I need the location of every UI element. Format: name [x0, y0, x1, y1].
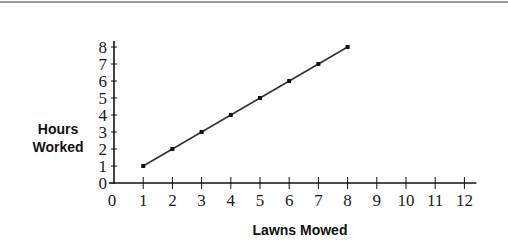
y-tick-label: 0 — [99, 174, 108, 193]
data-point — [258, 96, 262, 100]
x-tick-label: 2 — [168, 191, 177, 210]
y-tick-label: 5 — [99, 89, 108, 108]
data-point — [141, 164, 145, 168]
x-tick-label: 6 — [285, 191, 294, 210]
y-tick-label: 8 — [99, 38, 108, 57]
x-tick-label: 12 — [456, 191, 473, 210]
x-axis-title: Lawns Mowed — [253, 222, 348, 238]
y-tick-label: 1 — [99, 157, 108, 176]
data-point — [316, 62, 320, 66]
x-tick-label: 9 — [373, 191, 382, 210]
y-tick-label: 7 — [99, 55, 108, 74]
x-tick-label: 1 — [139, 191, 148, 210]
data-point — [170, 147, 174, 151]
x-tick-label: 7 — [314, 191, 323, 210]
y-tick-label: 3 — [99, 123, 108, 142]
data-point — [346, 45, 350, 49]
y-tick-label: 6 — [99, 72, 108, 91]
line-chart: 0123456789101112012345678Lawns MowedHour… — [0, 0, 508, 252]
y-tick-label: 4 — [99, 106, 108, 125]
data-point — [200, 130, 204, 134]
y-axis-title-line: Worked — [32, 139, 83, 155]
data-point — [229, 113, 233, 117]
data-point — [287, 79, 291, 83]
x-tick-label: 5 — [256, 191, 265, 210]
x-tick-label: 0 — [108, 191, 117, 210]
y-tick-label: 2 — [99, 140, 108, 159]
x-tick-label: 10 — [398, 191, 415, 210]
x-tick-label: 11 — [427, 191, 443, 210]
x-tick-label: 4 — [227, 191, 236, 210]
y-axis-title-line: Hours — [38, 121, 79, 137]
x-tick-label: 3 — [197, 191, 206, 210]
x-tick-label: 8 — [343, 191, 352, 210]
